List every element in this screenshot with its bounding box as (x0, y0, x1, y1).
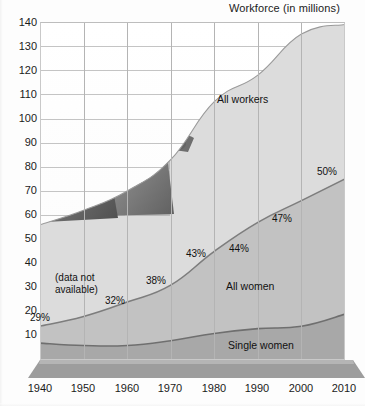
pct-label-1980: 44% (229, 243, 249, 254)
y-tick-60: 60 (3, 209, 37, 219)
x-tick-1970: 1970 (150, 382, 190, 394)
y-tick-50: 50 (3, 233, 37, 243)
y-tick-90: 90 (3, 137, 37, 147)
x-tick-2010: 2010 (324, 382, 364, 394)
y-tick-70: 70 (3, 185, 37, 195)
baseline-3d-band (28, 356, 365, 382)
x-tick-1940: 1940 (20, 382, 60, 394)
pct-label-2000: 50% (317, 166, 337, 177)
y-tick-140: 140 (3, 17, 37, 27)
data-not-available-note-line2: available) (55, 284, 98, 296)
y-tick-110: 110 (3, 89, 37, 99)
scan-edge-left (0, 0, 3, 406)
y-tick-130: 130 (3, 41, 37, 51)
pct-label-1940: 29% (30, 312, 50, 323)
y-tick-30: 30 (3, 281, 37, 291)
chart-title: Workforce (in millions) (229, 2, 340, 14)
y-tick-80: 80 (3, 161, 37, 171)
series-label-all-women: All women (226, 280, 274, 292)
y-tick-120: 120 (3, 65, 37, 75)
chart-canvas (40, 22, 345, 360)
x-tick-1980: 1980 (194, 382, 234, 394)
plot-area (40, 22, 345, 360)
pct-label-1950: 32% (105, 295, 125, 306)
x-tick-2000: 2000 (281, 382, 321, 394)
workforce-area-chart: Workforce (in millions) 140 130 120 110 … (0, 0, 365, 406)
y-tick-40: 40 (3, 257, 37, 267)
data-not-available-note-line1: (data not (55, 272, 94, 284)
x-tick-1960: 1960 (107, 382, 147, 394)
series-label-single-women: Single women (228, 339, 294, 351)
x-tick-1950: 1950 (63, 382, 103, 394)
y-axis: 140 130 120 110 100 90 80 70 60 50 40 30… (0, 0, 37, 406)
series-label-all-workers: All workers (217, 93, 268, 105)
y-tick-10: 10 (3, 329, 37, 339)
y-tick-100: 100 (3, 113, 37, 123)
pct-label-1990: 47% (272, 213, 292, 224)
pct-label-1970: 43% (186, 248, 206, 259)
pct-label-1960: 38% (146, 275, 166, 286)
x-tick-1990: 1990 (237, 382, 277, 394)
